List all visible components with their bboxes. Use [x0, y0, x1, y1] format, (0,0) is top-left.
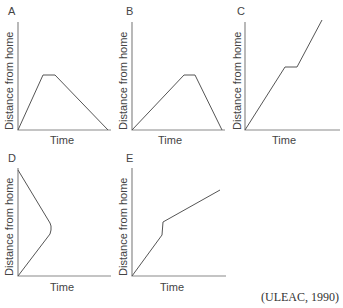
- axes-c: [245, 22, 340, 130]
- curve-e: [132, 190, 220, 276]
- graph-plot-e: [0, 0, 230, 308]
- axes-e: [132, 168, 226, 276]
- curve-c: [245, 20, 322, 130]
- graph-panel-e: E Distance from home Time: [0, 0, 230, 308]
- citation: (ULEAC, 1990): [261, 290, 339, 305]
